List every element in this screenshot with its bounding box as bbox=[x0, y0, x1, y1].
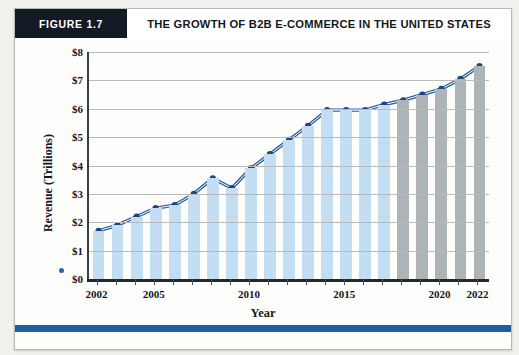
x-tick-mark-2013 bbox=[306, 279, 307, 285]
bar-2005 bbox=[150, 208, 162, 279]
bar-2018 bbox=[397, 100, 409, 279]
y-tick-5: $5 bbox=[89, 137, 90, 138]
x-tick-mark-2014 bbox=[325, 279, 326, 285]
x-tick-mark-2002 bbox=[97, 279, 98, 285]
bar-2004 bbox=[131, 217, 143, 279]
x-tick-label-2002: 2002 bbox=[86, 288, 108, 300]
y-tick-label-2: $2 bbox=[72, 216, 83, 228]
bar-2003 bbox=[112, 225, 124, 279]
y-axis-title: Revenue (Trillions) bbox=[41, 98, 59, 268]
gridline-7 bbox=[89, 80, 489, 81]
figure-page: FIGURE 1.7 THE GROWTH OF B2B E-COMMERCE … bbox=[0, 0, 519, 355]
x-tick-mark-2018 bbox=[401, 279, 402, 285]
x-tick-mark-2022 bbox=[477, 279, 478, 285]
x-tick-mark-2019 bbox=[420, 279, 421, 285]
y-tick-8: $8 bbox=[89, 52, 90, 53]
x-tick-label-2010: 2010 bbox=[238, 288, 260, 300]
x-tick-mark-2012 bbox=[287, 279, 288, 285]
figure-header: FIGURE 1.7 THE GROWTH OF B2B E-COMMERCE … bbox=[15, 9, 511, 39]
gridline-8 bbox=[89, 52, 489, 53]
bar-2017 bbox=[378, 105, 390, 280]
chart-area: Revenue (Trillions) $0$1$2$3$4$5$6$7$8 2… bbox=[15, 38, 511, 320]
figure-number-tag: FIGURE 1.7 bbox=[15, 9, 127, 38]
gridline-4 bbox=[89, 166, 489, 167]
gridline-1 bbox=[89, 251, 489, 252]
figure-card: FIGURE 1.7 THE GROWTH OF B2B E-COMMERCE … bbox=[14, 8, 512, 350]
y-tick-2: $2 bbox=[89, 222, 90, 223]
gridline-6 bbox=[89, 109, 489, 110]
bar-2007 bbox=[188, 194, 200, 279]
x-tick-mark-2010 bbox=[249, 279, 250, 285]
y-tick-label-0: $0 bbox=[72, 273, 83, 285]
bar-2012 bbox=[283, 140, 295, 279]
bar-2006 bbox=[169, 205, 181, 279]
y-tick-4: $4 bbox=[89, 166, 90, 167]
y-tick-label-4: $4 bbox=[72, 160, 83, 172]
x-tick-mark-2005 bbox=[154, 279, 155, 285]
x-tick-mark-2011 bbox=[268, 279, 269, 285]
y-tick-1: $1 bbox=[89, 251, 90, 252]
bar-2022 bbox=[474, 66, 486, 279]
bar-2011 bbox=[264, 154, 276, 279]
y-tick-label-8: $8 bbox=[72, 46, 83, 58]
x-tick-mark-2008 bbox=[211, 279, 212, 285]
x-tick-mark-2009 bbox=[230, 279, 231, 285]
y-tick-label-1: $1 bbox=[72, 245, 83, 257]
series-legend-marker-icon bbox=[59, 268, 64, 273]
bar-2013 bbox=[302, 126, 314, 279]
y-tick-6: $6 bbox=[89, 109, 90, 110]
x-tick-mark-2007 bbox=[192, 279, 193, 285]
figure-caption bbox=[15, 336, 511, 349]
x-axis-line bbox=[87, 279, 489, 282]
plot-inner bbox=[89, 52, 489, 279]
x-tick-mark-2006 bbox=[173, 279, 174, 285]
x-tick-label-2020: 2020 bbox=[428, 288, 450, 300]
gridline-3 bbox=[89, 194, 489, 195]
x-tick-mark-2021 bbox=[458, 279, 459, 285]
bar-2010 bbox=[245, 168, 257, 279]
x-tick-label-2005: 2005 bbox=[143, 288, 165, 300]
y-tick-label-3: $3 bbox=[72, 188, 83, 200]
bar-2002 bbox=[93, 231, 105, 279]
x-tick-label-2015: 2015 bbox=[333, 288, 355, 300]
y-tick-7: $7 bbox=[89, 80, 90, 81]
y-tick-label-5: $5 bbox=[72, 131, 83, 143]
y-tick-label-7: $7 bbox=[72, 74, 83, 86]
x-axis-title: Year bbox=[15, 306, 511, 321]
bottom-rule-divider bbox=[15, 325, 511, 332]
x-tick-mark-2017 bbox=[382, 279, 383, 285]
y-tick-label-6: $6 bbox=[72, 103, 83, 115]
gridline-5 bbox=[89, 137, 489, 138]
bar-2009 bbox=[226, 188, 238, 279]
x-tick-mark-2020 bbox=[439, 279, 440, 285]
x-tick-label-2022: 2022 bbox=[466, 288, 488, 300]
plot-region: $0$1$2$3$4$5$6$7$8 bbox=[87, 52, 489, 279]
figure-title: THE GROWTH OF B2B E-COMMERCE IN THE UNIT… bbox=[127, 9, 511, 38]
x-tick-mark-2016 bbox=[363, 279, 364, 285]
y-tick-3: $3 bbox=[89, 194, 90, 195]
x-tick-mark-2015 bbox=[344, 279, 345, 285]
gridline-2 bbox=[89, 222, 489, 223]
x-tick-mark-2003 bbox=[116, 279, 117, 285]
x-tick-mark-2004 bbox=[135, 279, 136, 285]
